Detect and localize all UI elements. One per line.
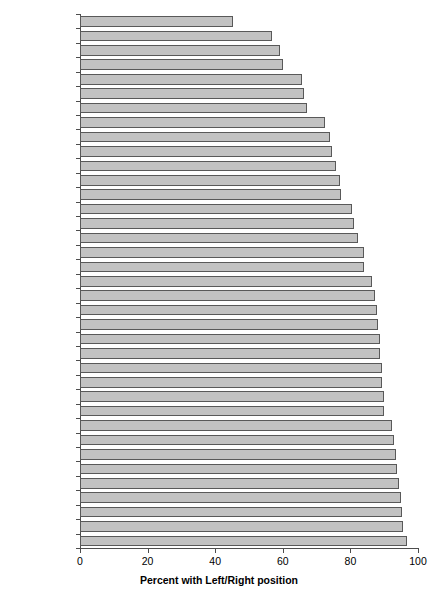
bar-row xyxy=(80,346,418,361)
bar xyxy=(80,363,382,374)
y-axis-tick xyxy=(76,447,80,448)
y-axis-tick xyxy=(76,173,80,174)
bar-row xyxy=(80,202,418,217)
y-axis-tick xyxy=(76,433,80,434)
bar-row xyxy=(80,173,418,188)
x-axis-tick-label: 40 xyxy=(209,555,221,567)
y-axis-tick xyxy=(76,144,80,145)
bar xyxy=(80,247,364,258)
bar xyxy=(80,464,397,475)
y-axis-tick xyxy=(76,158,80,159)
y-axis-tick xyxy=(76,519,80,520)
bar-row xyxy=(80,490,418,505)
bar xyxy=(80,59,283,70)
y-axis-tick xyxy=(76,115,80,116)
x-axis-title: Percent with Left/Right position xyxy=(0,574,438,586)
bar xyxy=(80,31,272,42)
bar xyxy=(80,117,325,128)
bar-row xyxy=(80,230,418,245)
bar xyxy=(80,521,403,532)
bar xyxy=(80,88,304,99)
bar xyxy=(80,161,336,172)
x-axis-tick xyxy=(350,548,351,553)
bar xyxy=(80,189,341,200)
bar xyxy=(80,420,392,431)
bar xyxy=(80,377,382,388)
bar-row xyxy=(80,375,418,390)
bar-row xyxy=(80,433,418,448)
bar xyxy=(80,175,340,186)
bar xyxy=(80,16,233,27)
bar xyxy=(80,290,375,301)
x-axis-tick xyxy=(148,548,149,553)
bar-row xyxy=(80,43,418,58)
x-axis-tick xyxy=(418,548,419,553)
bar-row xyxy=(80,101,418,116)
y-axis-tick xyxy=(76,360,80,361)
bar-row xyxy=(80,158,418,173)
y-axis-tick xyxy=(76,317,80,318)
y-axis-tick xyxy=(76,288,80,289)
bar-row xyxy=(80,115,418,130)
y-axis-tick xyxy=(76,216,80,217)
bar xyxy=(80,391,384,402)
y-axis-tick xyxy=(76,404,80,405)
bar-row xyxy=(80,144,418,159)
bar-row xyxy=(80,303,418,318)
y-axis-tick xyxy=(76,86,80,87)
y-axis-tick xyxy=(76,476,80,477)
bar-row xyxy=(80,447,418,462)
bar-row xyxy=(80,288,418,303)
bar-row xyxy=(80,216,418,231)
bar-row xyxy=(80,389,418,404)
bar-row xyxy=(80,476,418,491)
y-axis-tick xyxy=(76,259,80,260)
bar xyxy=(80,319,378,330)
bar xyxy=(80,74,302,85)
bar-row xyxy=(80,86,418,101)
x-axis-tick-label: 0 xyxy=(77,555,83,567)
y-axis-tick xyxy=(76,28,80,29)
y-axis-tick xyxy=(76,202,80,203)
bar-row xyxy=(80,332,418,347)
bar-chart: 020406080100 Percent with Left/Right pos… xyxy=(0,0,438,598)
bar xyxy=(80,262,364,273)
bar-rows xyxy=(80,14,418,548)
bar-row xyxy=(80,404,418,419)
y-axis-tick xyxy=(76,534,80,535)
bar-row xyxy=(80,129,418,144)
bar-row xyxy=(80,259,418,274)
bar-row xyxy=(80,274,418,289)
y-axis-tick xyxy=(76,57,80,58)
bar xyxy=(80,478,399,489)
bar-row xyxy=(80,187,418,202)
bar xyxy=(80,45,280,56)
y-axis-tick xyxy=(76,505,80,506)
y-axis-tick xyxy=(76,418,80,419)
bar-row xyxy=(80,28,418,43)
y-axis-tick xyxy=(76,490,80,491)
y-axis-tick xyxy=(76,187,80,188)
y-axis-tick xyxy=(76,303,80,304)
y-axis-tick xyxy=(76,389,80,390)
bar xyxy=(80,536,407,547)
bar-row xyxy=(80,534,418,549)
x-axis-line xyxy=(80,548,419,549)
y-axis-tick xyxy=(76,14,80,15)
x-axis-tick-label: 60 xyxy=(277,555,289,567)
x-axis-tick-label: 20 xyxy=(142,555,154,567)
bar-row xyxy=(80,14,418,29)
bar xyxy=(80,507,402,518)
plot-area xyxy=(80,14,418,548)
x-axis-tick xyxy=(215,548,216,553)
y-axis-tick xyxy=(76,346,80,347)
bar xyxy=(80,132,330,143)
bar xyxy=(80,305,377,316)
y-axis-tick xyxy=(76,101,80,102)
bar xyxy=(80,233,358,244)
bar xyxy=(80,492,401,503)
bar-row xyxy=(80,57,418,72)
bar-row xyxy=(80,360,418,375)
x-axis-tick-label: 100 xyxy=(409,555,427,567)
bar xyxy=(80,334,380,345)
